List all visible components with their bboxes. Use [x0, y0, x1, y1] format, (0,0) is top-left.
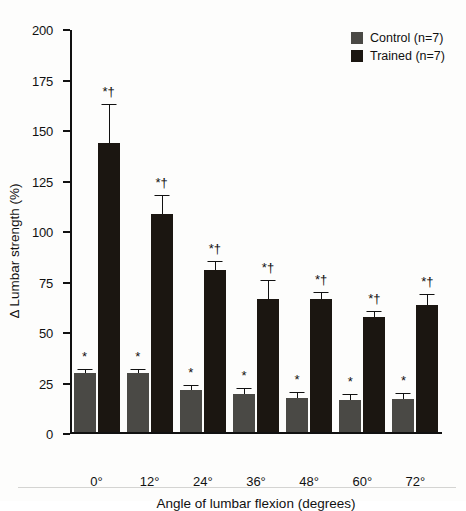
significance-marker-control-1: *: [135, 350, 140, 363]
error-cap-trained-3: [261, 280, 276, 281]
error-bar-trained-0: [109, 105, 110, 143]
error-bar-control-3: [244, 389, 245, 394]
error-cap-trained-2: [207, 261, 222, 262]
bar-control-2: [180, 390, 202, 432]
error-bar-control-1: [138, 370, 139, 373]
error-bar-trained-2: [215, 262, 216, 270]
legend-label-trained: Trained (n=7): [370, 49, 445, 63]
error-bar-trained-1: [162, 196, 163, 214]
error-bar-trained-5: [374, 312, 375, 317]
significance-marker-control-3: *: [241, 369, 246, 382]
y-tick-150: 150: [63, 130, 70, 132]
error-cap-control-6: [396, 393, 411, 394]
significance-marker-trained-2: *†: [209, 242, 221, 255]
significance-marker-control-4: *: [295, 373, 300, 386]
error-cap-control-4: [290, 392, 305, 393]
error-cap-control-0: [77, 369, 92, 370]
error-cap-trained-4: [314, 292, 329, 293]
y-tick-label-100: 100: [32, 225, 53, 240]
y-tick-label-25: 25: [39, 376, 53, 391]
error-bar-control-6: [403, 394, 404, 399]
significance-marker-trained-3: *†: [262, 261, 274, 274]
error-cap-control-5: [343, 394, 358, 395]
footer-divider: [18, 487, 456, 488]
error-bar-trained-4: [321, 293, 322, 299]
y-tick-label-125: 125: [32, 174, 53, 189]
bar-trained-4: [310, 299, 332, 432]
y-tick-200: 200: [63, 29, 70, 31]
significance-marker-trained-6: *†: [421, 275, 433, 288]
y-tick-175: 175: [63, 80, 70, 82]
y-tick-25: 25: [63, 383, 70, 385]
significance-marker-trained-4: *†: [315, 273, 327, 286]
legend-swatch-trained-icon: [351, 50, 363, 62]
y-tick-label-175: 175: [32, 73, 53, 88]
error-cap-trained-0: [101, 104, 116, 105]
significance-marker-control-0: *: [82, 350, 87, 363]
significance-marker-control-5: *: [348, 375, 353, 388]
y-tick-0: 0: [63, 433, 70, 435]
error-bar-control-4: [297, 393, 298, 398]
x-axis-line: [70, 432, 442, 434]
y-tick-125: 125: [63, 181, 70, 183]
error-bar-control-2: [191, 386, 192, 390]
significance-marker-trained-0: *†: [102, 85, 114, 98]
legend-item-control: Control (n=7): [351, 31, 445, 45]
bar-trained-0: [98, 143, 120, 432]
bar-control-4: [286, 398, 308, 432]
y-tick-50: 50: [63, 332, 70, 334]
bar-control-5: [339, 400, 361, 432]
y-axis-line: [70, 30, 72, 434]
error-cap-trained-6: [420, 294, 435, 295]
y-tick-label-0: 0: [46, 427, 53, 442]
error-bar-trained-3: [268, 281, 269, 299]
error-bar-trained-6: [427, 295, 428, 305]
bar-trained-5: [363, 317, 385, 432]
legend-swatch-control-icon: [351, 32, 363, 44]
y-axis-title: Δ Lumbar strength (%): [7, 183, 22, 318]
error-bar-control-5: [350, 395, 351, 400]
significance-marker-trained-1: *†: [156, 176, 168, 189]
y-tick-label-150: 150: [32, 124, 53, 139]
bar-trained-2: [204, 270, 226, 432]
error-cap-trained-5: [367, 311, 382, 312]
y-tick-label-50: 50: [39, 326, 53, 341]
legend-item-trained: Trained (n=7): [351, 49, 445, 63]
y-tick-75: 75: [63, 282, 70, 284]
error-cap-trained-1: [154, 195, 169, 196]
bar-control-6: [392, 399, 414, 432]
error-cap-control-3: [237, 388, 252, 389]
bar-trained-6: [416, 305, 438, 432]
legend: Control (n=7) Trained (n=7): [351, 31, 445, 67]
y-tick-label-75: 75: [39, 275, 53, 290]
plot-area: 0255075100125150175200 **†**†**†**†**†**…: [70, 30, 442, 434]
error-bar-control-0: [85, 370, 86, 373]
x-axis-title: Angle of lumbar flexion (degrees): [70, 496, 442, 511]
significance-marker-control-2: *: [188, 366, 193, 379]
bar-trained-1: [151, 214, 173, 432]
y-tick-label-200: 200: [32, 23, 53, 38]
error-cap-control-2: [183, 385, 198, 386]
bar-control-1: [127, 373, 149, 432]
bar-control-3: [233, 394, 255, 432]
legend-label-control: Control (n=7): [370, 31, 443, 45]
error-cap-control-1: [130, 369, 145, 370]
bar-control-0: [74, 373, 96, 432]
bar-trained-3: [257, 299, 279, 432]
significance-marker-control-6: *: [401, 374, 406, 387]
y-tick-100: 100: [63, 231, 70, 233]
significance-marker-trained-5: *†: [368, 292, 380, 305]
